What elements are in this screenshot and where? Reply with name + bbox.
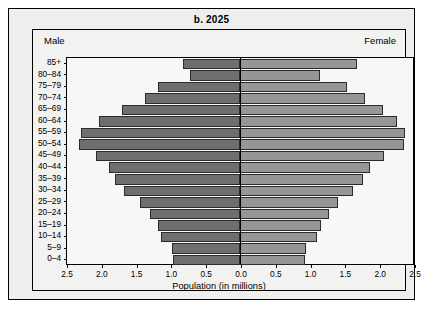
x-axis-tick-label: 2.0 <box>365 269 395 279</box>
bar-male-15-19 <box>158 220 240 231</box>
y-axis-tick-label: 25–29 <box>38 196 61 208</box>
bar-female-20-24 <box>240 209 329 220</box>
x-axis-tick-label: 0.0 <box>226 269 256 279</box>
bar-female-60-64 <box>240 116 397 127</box>
bar-female-50-54 <box>240 139 404 150</box>
bar-male-80-84 <box>190 70 240 81</box>
x-axis-tick <box>102 265 103 268</box>
y-axis-tick-label: 30–34 <box>38 184 61 196</box>
bar-male-45-49 <box>96 151 240 162</box>
bar-male-55-59 <box>81 128 240 139</box>
x-axis-tick-label: 2.5 <box>400 269 425 279</box>
x-axis-tick <box>137 265 138 268</box>
bar-female-0-4 <box>240 255 305 266</box>
bar-male-75-79 <box>158 82 240 93</box>
y-axis-tick-label: 80–84 <box>38 69 61 81</box>
x-axis-tick-label: 1.5 <box>330 269 360 279</box>
bar-female-70-74 <box>240 93 365 104</box>
bar-female-35-39 <box>240 174 363 185</box>
y-axis-tick-label: 15–19 <box>38 219 61 231</box>
bar-female-55-59 <box>240 128 405 139</box>
legend-female-label: Female <box>364 35 396 46</box>
bar-male-10-14 <box>161 232 240 243</box>
x-axis-tick-label: 0.5 <box>191 269 221 279</box>
y-axis-tick-label: 75–79 <box>38 80 61 92</box>
bar-female-25-29 <box>240 197 338 208</box>
x-axis-tick <box>206 265 207 268</box>
bar-male-65-69 <box>122 105 240 116</box>
y-axis-tick-label: 35–39 <box>38 173 61 185</box>
y-axis-tick-label: 70–74 <box>38 92 61 104</box>
y-axis-tick-label: 85+ <box>47 57 61 69</box>
x-axis-tick <box>380 265 381 268</box>
x-axis-tick <box>345 265 346 268</box>
bar-female-75-79 <box>240 82 347 93</box>
x-axis-tick <box>311 265 312 268</box>
bar-female-80-84 <box>240 70 320 81</box>
x-axis-tick <box>67 265 68 268</box>
x-axis-tick-label: 2.5 <box>52 269 82 279</box>
bar-male-20-24 <box>150 209 240 220</box>
bar-female-85+ <box>240 59 357 70</box>
bar-male-85+ <box>183 59 240 70</box>
bar-male-30-34 <box>124 186 240 197</box>
page-title: b. 2025 <box>9 14 414 25</box>
chart-panel: Male Female 85+80–8475–7970–7465–6960–64… <box>32 29 406 291</box>
figure-panel: b. 2025 Male Female 85+80–8475–7970–7465… <box>8 8 415 300</box>
bar-female-5-9 <box>240 243 306 254</box>
y-axis-tick-label: 45–49 <box>38 149 61 161</box>
center-axis-line <box>240 58 241 264</box>
bar-male-40-44 <box>109 162 240 173</box>
x-axis-tick <box>241 265 242 268</box>
x-axis-tick-label: 1.5 <box>122 269 152 279</box>
x-axis-title: Population (in millions) <box>33 281 405 291</box>
x-axis-tick-label: 0.5 <box>261 269 291 279</box>
y-axis-tick-label: 20–24 <box>38 207 61 219</box>
y-axis-tick-label: 5–9 <box>47 242 61 254</box>
x-axis-tick-label: 1.0 <box>156 269 186 279</box>
y-axis-tick-label: 10–14 <box>38 230 61 242</box>
bar-female-45-49 <box>240 151 384 162</box>
y-axis-labels: 85+80–8475–7970–7465–6960–6455–5950–5445… <box>33 57 64 265</box>
bar-male-35-39 <box>115 174 240 185</box>
bar-male-5-9 <box>172 243 240 254</box>
y-axis-tick-label: 40–44 <box>38 161 61 173</box>
y-axis-tick-label: 0–4 <box>47 253 61 265</box>
x-axis-tick <box>276 265 277 268</box>
bar-male-70-74 <box>145 93 240 104</box>
bar-female-40-44 <box>240 162 370 173</box>
bar-female-65-69 <box>240 105 383 116</box>
y-axis-tick-label: 50–54 <box>38 138 61 150</box>
bar-female-30-34 <box>240 186 353 197</box>
x-axis-tick <box>415 265 416 268</box>
y-axis-tick-label: 60–64 <box>38 115 61 127</box>
bar-male-0-4 <box>173 255 241 266</box>
bar-male-25-29 <box>140 197 240 208</box>
y-axis-tick-label: 55–59 <box>38 126 61 138</box>
bar-male-60-64 <box>99 116 240 127</box>
x-axis-tick-label: 1.0 <box>296 269 326 279</box>
plot-area <box>66 57 414 265</box>
x-axis-tick-label: 2.0 <box>87 269 117 279</box>
bar-female-10-14 <box>240 232 317 243</box>
bar-female-15-19 <box>240 220 321 231</box>
x-axis-tick <box>171 265 172 268</box>
y-axis-tick-label: 65–69 <box>38 103 61 115</box>
legend-male-label: Male <box>44 35 65 46</box>
bar-male-50-54 <box>79 139 240 150</box>
